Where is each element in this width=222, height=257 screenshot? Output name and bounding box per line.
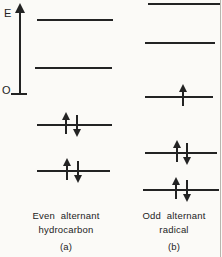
axis-label-zero: O [2,84,11,96]
spin-up-arrow-icon [62,112,70,134]
spin-up-arrow-icon [179,84,187,106]
arrow-shaft [65,117,67,134]
energy-level-figure: E O Even alternant hydrocarbon (a) Odd a… [0,0,222,257]
arrow-shaft [176,145,178,162]
spin-up-arrow-icon [63,158,71,180]
spin-down-arrow-icon [183,143,191,165]
energy-level-line [37,19,113,21]
arrow-shaft [186,143,188,160]
caption-text-line: radical [127,223,221,237]
spin-down-arrow-icon [73,115,81,137]
caption-even-alternant: Even alternant hydrocarbon (a) [12,209,120,254]
energy-level-line [143,189,219,191]
arrow-shaft [66,163,68,180]
energy-axis-line [19,6,21,95]
caption-odd-alternant: Odd alternant radical (b) [127,209,221,254]
energy-level-line [35,67,112,69]
energy-level-line [148,3,220,5]
spin-down-arrow-icon [183,180,191,202]
arrow-shaft [175,182,177,199]
arrow-shaft [182,89,184,106]
caption-text-line: Odd alternant [127,209,221,223]
caption-text-line: hydrocarbon [12,223,120,237]
zero-tick [11,93,27,95]
arrow-shaft [186,180,188,197]
subfigure-label-a: (a) [12,240,120,254]
spin-up-arrow-icon [172,177,180,199]
arrow-shaft [77,161,79,178]
caption-text-line: Even alternant [12,209,120,223]
arrow-shaft [76,115,78,132]
axis-label-energy: E [4,7,11,19]
energy-level-line [145,152,217,154]
spin-down-arrow-icon [74,161,82,183]
spin-up-arrow-icon [173,140,181,162]
subfigure-label-b: (b) [127,240,221,254]
energy-level-line [145,42,215,44]
